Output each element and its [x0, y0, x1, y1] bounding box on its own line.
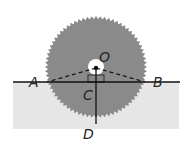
label-b: B — [153, 75, 163, 89]
label-a: A — [29, 75, 39, 89]
label-d: D — [83, 127, 94, 141]
label-o: O — [99, 50, 110, 64]
label-c: C — [83, 88, 93, 102]
saw-blade-diagram — [0, 0, 190, 146]
